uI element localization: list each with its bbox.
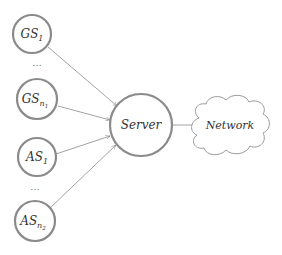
ellipsis-as: ...: [30, 181, 40, 192]
node-network[interactable]: Network: [192, 95, 270, 154]
node-gs1[interactable]: GS1: [13, 15, 51, 53]
node-asn2[interactable]: ASn2: [15, 201, 55, 241]
edge-gs1-server: [48, 47, 117, 106]
node-network-label: Network: [205, 119, 255, 132]
node-as1[interactable]: AS1: [18, 138, 56, 176]
edge-as1-server: [56, 136, 110, 154]
node-server-label: Server: [121, 118, 163, 132]
node-server[interactable]: Server: [110, 94, 172, 156]
node-gsn1[interactable]: GSn1: [17, 79, 57, 119]
ellipsis-gs: ...: [32, 57, 42, 68]
diagram-canvas: GS1 ... GSn1 Server AS1 ... ASn2 Network: [0, 0, 282, 255]
edge-gsn1-server: [58, 106, 110, 120]
edge-asn2-server: [50, 145, 116, 208]
